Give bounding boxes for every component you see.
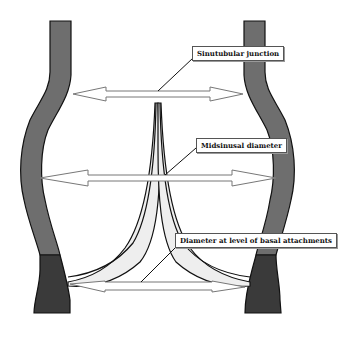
basal-attachments-label: Diameter at level of basal attachments [175,233,337,248]
left-wall-upper [21,21,71,255]
right-leaflet [158,103,250,286]
aortic-root-diagram [0,0,339,348]
midsinusal-diameter-label: Midsinusal diameter [196,138,287,153]
sinotubular-leader [158,58,193,91]
sinotubular-arrow [73,87,243,101]
left-leaflet [68,103,160,286]
sinotubular-junction-label: Sinutubular junction [192,46,284,61]
basal-arrow [70,281,245,292]
left-wall-lower [34,255,70,313]
midsinusal-leader [165,148,196,175]
